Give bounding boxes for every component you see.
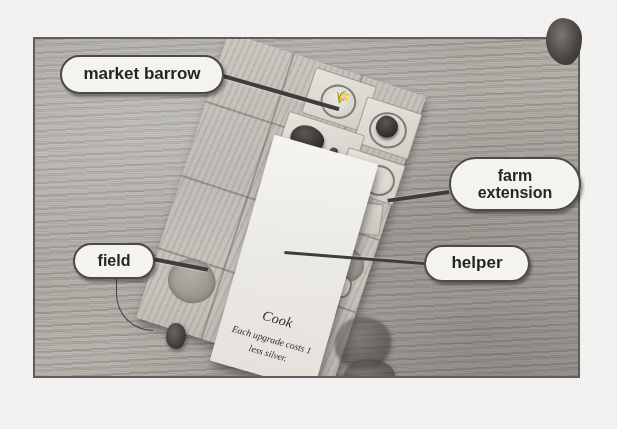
callout-field[interactable]: field: [73, 243, 155, 279]
callout-market-barrow[interactable]: market barrow: [60, 55, 224, 94]
corner-smudge-blob: [546, 18, 582, 65]
callout-farm-extension[interactable]: farm extension: [449, 157, 581, 211]
wood-resource-blob: [166, 323, 186, 349]
callout-field-label: field: [98, 252, 131, 269]
callout-farm-extension-label: farm extension: [478, 167, 553, 202]
callout-helper[interactable]: helper: [424, 245, 530, 282]
callout-helper-label: helper: [451, 254, 502, 272]
card-body: Cook Each upgrade costs 1 less silver.: [214, 297, 332, 375]
figure-root: 🌾: [0, 0, 617, 429]
callout-market-barrow-label: market barrow: [83, 65, 200, 83]
